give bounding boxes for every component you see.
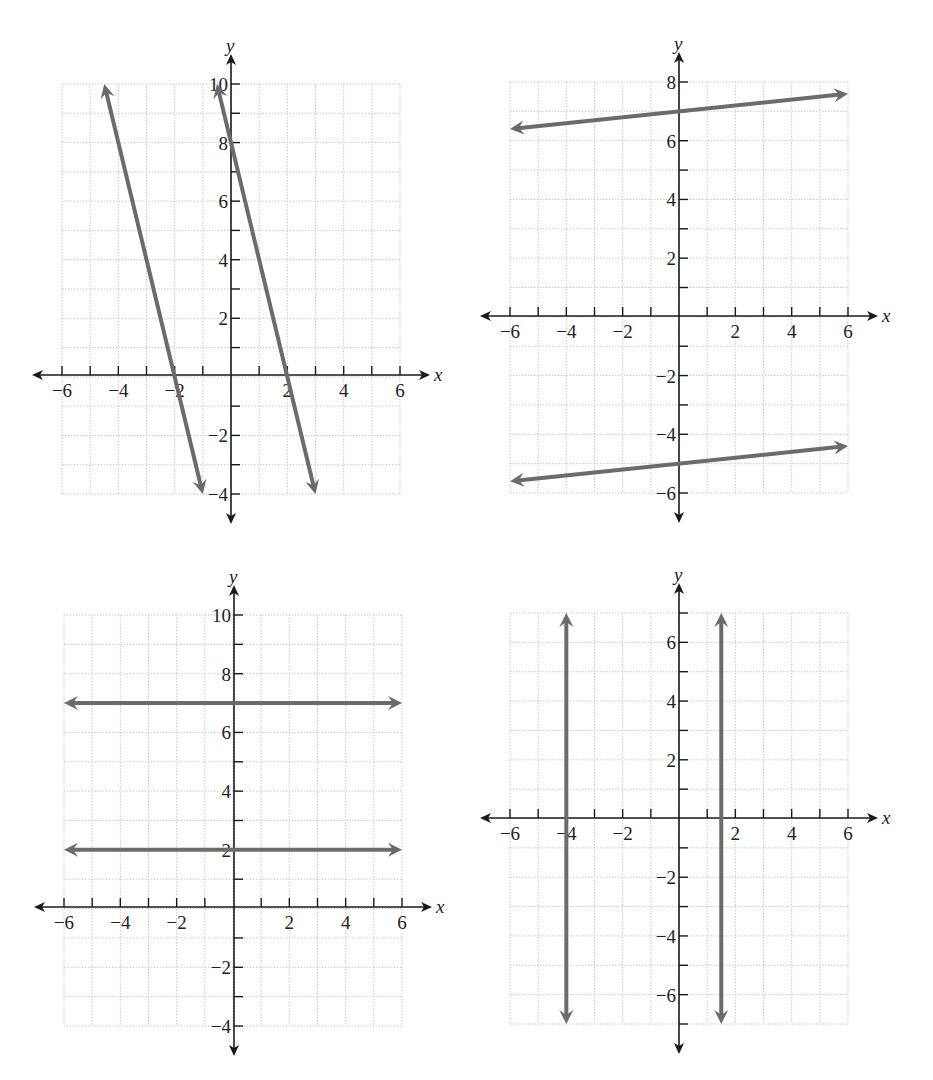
y-tick-label: −6 <box>656 483 676 504</box>
y-tick-label: −6 <box>656 985 676 1006</box>
y-tick-label: 6 <box>219 191 229 212</box>
y-axis-label: y <box>224 35 235 56</box>
y-tick-label: −4 <box>656 424 677 445</box>
x-axis-label: x <box>433 364 443 385</box>
x-tick-label: −2 <box>167 912 187 933</box>
y-tick-label: 8 <box>667 72 677 93</box>
y-tick-label: 4 <box>219 250 229 271</box>
y-tick-label: 8 <box>219 133 229 154</box>
graph-2: −6−4−22468642−2−4−6xy <box>480 33 891 523</box>
x-tick-label: −4 <box>556 321 577 342</box>
y-axis-label: y <box>227 566 238 587</box>
y-tick-label: 6 <box>667 632 677 653</box>
x-tick-label: 2 <box>285 912 295 933</box>
y-tick-label: 4 <box>667 189 677 210</box>
x-tick-label: −6 <box>500 321 520 342</box>
x-tick-label: 4 <box>787 823 797 844</box>
y-tick-label: 10 <box>212 605 231 626</box>
x-axis-label: x <box>881 305 891 326</box>
y-tick-label: −2 <box>656 366 676 387</box>
x-tick-label: 4 <box>339 380 349 401</box>
y-tick-label: 4 <box>667 691 677 712</box>
y-tick-label: 2 <box>219 308 229 329</box>
x-tick-label: 2 <box>731 321 741 342</box>
y-tick-label: 2 <box>667 248 677 269</box>
x-axis-label: x <box>435 896 445 917</box>
y-tick-label: 6 <box>222 722 232 743</box>
y-tick-label: −2 <box>656 867 676 888</box>
x-tick-label: 6 <box>397 912 407 933</box>
x-tick-label: −6 <box>54 912 74 933</box>
graph-1: −6−4−2246108642−2−4xy <box>32 35 443 524</box>
y-axis-label: y <box>672 564 683 585</box>
x-tick-label: −6 <box>52 380 72 401</box>
x-tick-label: −2 <box>613 823 633 844</box>
y-tick-label: 2 <box>667 750 677 771</box>
y-tick-label: −2 <box>208 425 228 446</box>
x-tick-label: −4 <box>108 380 129 401</box>
x-tick-label: 6 <box>395 380 405 401</box>
x-tick-label: −2 <box>613 321 633 342</box>
y-tick-label: −4 <box>208 484 229 505</box>
y-tick-label: 6 <box>667 131 677 152</box>
y-tick-label: −4 <box>656 926 677 947</box>
y-tick-label: −4 <box>211 1016 232 1037</box>
x-tick-label: 2 <box>731 823 741 844</box>
y-tick-label: −2 <box>211 957 231 978</box>
x-tick-label: 4 <box>787 321 797 342</box>
x-tick-label: −4 <box>110 912 131 933</box>
x-axis-label: x <box>881 807 891 828</box>
x-tick-label: 6 <box>843 321 853 342</box>
y-tick-label: 4 <box>222 781 232 802</box>
graph-4: −6−4−2246642−2−4−6xy <box>480 564 891 1054</box>
graph-3: −6−4−2246108642−2−4xy <box>34 566 445 1056</box>
grid <box>64 615 402 1026</box>
x-tick-label: 4 <box>341 912 351 933</box>
y-axis-label: y <box>672 33 683 54</box>
y-tick-label: 8 <box>222 664 232 685</box>
x-tick-label: −6 <box>500 823 520 844</box>
x-tick-label: 6 <box>843 823 853 844</box>
graphs-canvas: −6−4−2246108642−2−4xy−6−4−22468642−2−4−6… <box>0 0 933 1080</box>
